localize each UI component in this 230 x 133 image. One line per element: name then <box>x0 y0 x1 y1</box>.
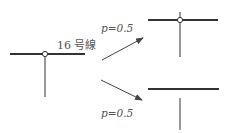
junction-transition-diagram: 16 号線 p=0.5 p=0.5 <box>0 0 230 133</box>
probability-label-lower: p=0.5 <box>101 107 134 119</box>
result-connected-node <box>177 17 182 22</box>
junction-node <box>42 51 47 56</box>
result-connected <box>148 12 218 57</box>
transition-lower: p=0.5 <box>101 80 142 119</box>
initial-junction: 16 号線 <box>10 38 97 97</box>
arrow-upper-icon <box>102 38 143 60</box>
arrow-lower-icon <box>101 80 142 100</box>
transition-upper: p=0.5 <box>101 22 143 60</box>
line-label: 16 号線 <box>57 38 97 52</box>
result-disconnected <box>148 89 219 130</box>
probability-label-upper: p=0.5 <box>101 22 134 34</box>
